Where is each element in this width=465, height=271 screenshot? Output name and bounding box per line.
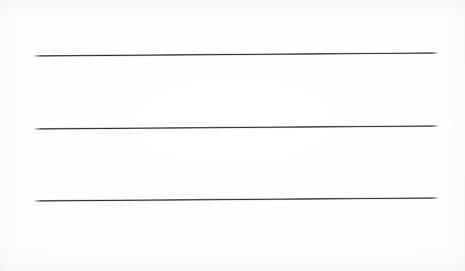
rule-stroke (34, 52, 438, 57)
paper-background (0, 0, 465, 271)
scan-edge-grain (0, 0, 465, 271)
horizontal-rule-2 (34, 125, 438, 130)
horizontal-rule-3 (34, 197, 438, 202)
document-canvas (0, 0, 465, 271)
rule-stroke (34, 125, 438, 130)
rule-stroke (34, 197, 438, 202)
horizontal-rule-1 (34, 52, 438, 57)
